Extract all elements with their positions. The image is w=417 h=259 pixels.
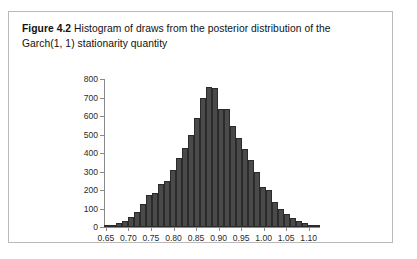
x-axis-tick (241, 227, 242, 231)
x-axis-tick (309, 227, 310, 231)
y-axis-label: 400 (69, 148, 98, 158)
x-axis-label: 0.90 (210, 233, 227, 243)
y-axis-tick (100, 79, 104, 80)
x-axis-tick (219, 227, 220, 231)
x-axis-label: 0.70 (120, 233, 137, 243)
x-axis-label: 1.05 (278, 233, 295, 243)
figure-caption: Figure 4.2 Histogram of draws from the p… (22, 22, 382, 51)
x-axis-tick (174, 227, 175, 231)
x-axis-line (104, 227, 320, 228)
x-axis-label: 0.75 (143, 233, 160, 243)
x-axis-label: 0.85 (188, 233, 205, 243)
x-axis-tick (151, 227, 152, 231)
y-axis-tick (100, 227, 104, 228)
y-axis-label: 600 (69, 111, 98, 121)
x-axis-label: 1.10 (300, 233, 317, 243)
y-axis-label: 500 (69, 130, 98, 140)
x-axis-label: 0.95 (233, 233, 250, 243)
figure-label: Figure 4.2 (22, 23, 71, 34)
y-axis-label: 700 (69, 93, 98, 103)
y-axis-label: 800 (69, 74, 98, 84)
x-axis-label: 1.00 (255, 233, 272, 243)
histogram-bar (314, 225, 320, 227)
y-axis-tick (100, 135, 104, 136)
y-axis-tick (100, 153, 104, 154)
y-axis-tick (100, 172, 104, 173)
y-axis-tick (100, 116, 104, 117)
histogram-bars (104, 79, 320, 227)
y-axis-label: 0 (69, 222, 98, 232)
x-axis-tick (128, 227, 129, 231)
x-axis-tick (106, 227, 107, 231)
x-axis-label: 0.65 (98, 233, 115, 243)
histogram-plot: 0100200300400500600700800 0.650.700.750.… (9, 64, 394, 244)
x-axis-label: 0.80 (165, 233, 182, 243)
y-axis-label: 200 (69, 185, 98, 195)
y-axis-tick (100, 190, 104, 191)
y-axis-tick (100, 98, 104, 99)
x-axis-tick (286, 227, 287, 231)
y-axis-label: 300 (69, 167, 98, 177)
x-axis-tick (264, 227, 265, 231)
figure-title-line1: Histogram of draws from the posterior di… (74, 23, 330, 34)
figure-title-line2: Garch(1, 1) stationarity quantity (22, 37, 382, 52)
y-axis-label: 100 (69, 204, 98, 214)
x-axis-tick (196, 227, 197, 231)
y-axis-tick (100, 209, 104, 210)
figure-card: Figure 4.2 Histogram of draws from the p… (8, 11, 393, 243)
